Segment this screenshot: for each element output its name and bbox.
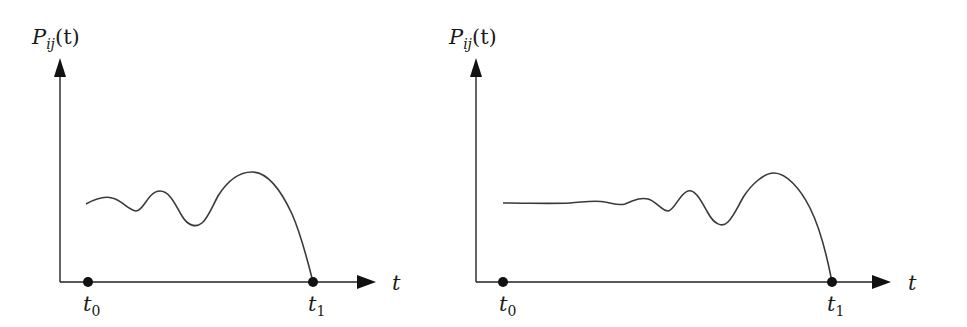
probability-curve	[503, 173, 832, 282]
t1-label: t1	[308, 292, 325, 319]
x-axis-arrow-icon	[872, 275, 891, 289]
x-axis-label: t	[908, 271, 917, 295]
diagram-canvas: Pij(t) t t0 t1 Pij(t) t t0 t1	[0, 0, 967, 327]
t1-marker	[308, 277, 318, 287]
t0-marker	[83, 277, 93, 287]
x-axis-label: t	[392, 271, 401, 295]
t0-marker	[498, 277, 508, 287]
left-plot: Pij(t) t t0 t1	[31, 25, 401, 319]
probability-curve	[86, 172, 313, 282]
t0-label: t0	[83, 292, 100, 319]
x-axis-arrow-icon	[357, 275, 376, 289]
t1-marker	[827, 277, 837, 287]
right-plot: Pij(t) t t0 t1	[448, 25, 917, 319]
t0-label: t0	[499, 292, 516, 319]
y-axis-arrow-icon	[470, 58, 482, 77]
t1-label: t1	[827, 292, 844, 319]
y-axis-label: Pij(t)	[31, 25, 80, 52]
y-axis-arrow-icon	[54, 58, 66, 77]
y-axis-label: Pij(t)	[448, 25, 497, 52]
